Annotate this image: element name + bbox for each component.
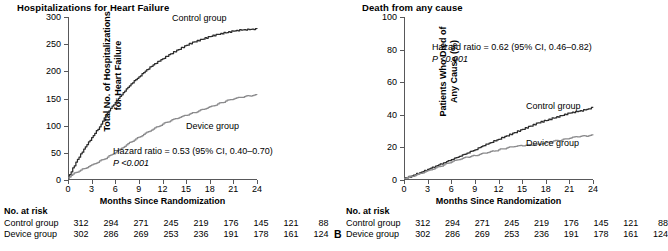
y-tick bbox=[400, 115, 404, 116]
panel-b-device-series-label: Device group bbox=[526, 139, 579, 148]
risk-row-value: 271 bbox=[119, 218, 149, 229]
y-tick bbox=[400, 17, 404, 18]
risk-row-value: 88 bbox=[638, 218, 668, 229]
x-tick-label: 6 bbox=[113, 185, 118, 194]
risk-row-value: 176 bbox=[209, 218, 239, 229]
panel-b-plot-area: Patients Who Died of Any Cause (%) Month… bbox=[404, 17, 593, 180]
x-tick-label: 15 bbox=[517, 185, 527, 194]
risk-row-value: 294 bbox=[430, 218, 460, 229]
risk-row-value: 191 bbox=[209, 229, 239, 240]
risk-row-value: 245 bbox=[490, 218, 520, 229]
risk-row-value: 124 bbox=[299, 229, 329, 240]
panel-a-device-series-label: Device group bbox=[186, 122, 239, 131]
y-tick bbox=[64, 71, 68, 72]
y-tick-label: 20 bbox=[387, 143, 397, 152]
risk-row-value: 145 bbox=[579, 218, 609, 229]
risk-row-label: Device group bbox=[346, 229, 401, 240]
panel-a-hospitalizations: Hospitalizations for Heart Failure Total… bbox=[0, 0, 334, 251]
risk-row-value: 236 bbox=[519, 229, 549, 240]
panel-a-p-value-text: P <0.001 bbox=[113, 158, 273, 170]
panel-a-hazard-ratio-annotation: Hazard ratio = 0.53 (95% CI, 0.40–0.70) … bbox=[113, 146, 273, 169]
panel-b-control-series-label: Control group bbox=[526, 102, 581, 111]
y-tick-label: 100 bbox=[46, 121, 61, 130]
risk-row-value: 312 bbox=[59, 218, 89, 229]
x-tick-label: 15 bbox=[181, 185, 191, 194]
y-tick bbox=[64, 99, 68, 100]
risk-row-value: 219 bbox=[519, 218, 549, 229]
risk-row-value: 219 bbox=[179, 218, 209, 229]
x-tick-label: 24 bbox=[588, 185, 598, 194]
x-tick-label: 18 bbox=[541, 185, 551, 194]
risk-row-label: Control group bbox=[4, 218, 59, 229]
x-tick-label: 6 bbox=[449, 185, 454, 194]
risk-row: Device group302286269253236191178161124 bbox=[4, 229, 329, 240]
x-tick-label: 0 bbox=[401, 185, 406, 194]
y-tick bbox=[400, 82, 404, 83]
panel-b-death-any-cause: Death from any cause Patients Who Died o… bbox=[334, 0, 668, 251]
x-tick-label: 12 bbox=[157, 185, 167, 194]
y-tick bbox=[64, 44, 68, 45]
y-tick-label: 300 bbox=[46, 13, 61, 22]
panel-b-risk-title: No. at risk bbox=[346, 206, 668, 217]
risk-row-value: 161 bbox=[269, 229, 299, 240]
panel-a-risk-numbers: Control group31229427124521917614512188D… bbox=[4, 218, 329, 240]
risk-row-value: 286 bbox=[89, 229, 119, 240]
panel-b-risk-table: No. at risk Control group312294271245219… bbox=[346, 206, 668, 240]
x-tick-label: 3 bbox=[425, 185, 430, 194]
y-tick-label: 200 bbox=[46, 67, 61, 76]
panel-b-hazard-ratio-annotation: Hazard ratio = 0.62 (95% CI, 0.46–0.82) … bbox=[432, 42, 592, 65]
risk-row-value: 253 bbox=[149, 229, 179, 240]
risk-row-value: 312 bbox=[401, 218, 431, 229]
panel-b-x-axis-label: Months Since Randomization bbox=[404, 196, 593, 206]
y-tick-label: 40 bbox=[387, 110, 397, 119]
panel-a-hazard-ratio-text: Hazard ratio = 0.53 (95% CI, 0.40–0.70) bbox=[113, 146, 273, 158]
x-tick-label: 3 bbox=[89, 185, 94, 194]
x-tick-label: 21 bbox=[228, 185, 238, 194]
risk-row-value: 245 bbox=[149, 218, 179, 229]
x-tick-label: 18 bbox=[205, 185, 215, 194]
y-tick bbox=[64, 17, 68, 18]
panel-a-title: Hospitalizations for Heart Failure bbox=[17, 2, 169, 13]
risk-row-value: 269 bbox=[460, 229, 490, 240]
risk-row-value: 302 bbox=[401, 229, 431, 240]
y-tick bbox=[400, 50, 404, 51]
risk-row-value: 176 bbox=[549, 218, 579, 229]
x-tick-label: 21 bbox=[564, 185, 574, 194]
panel-b-hazard-ratio-text: Hazard ratio = 0.62 (95% CI, 0.46–0.82) bbox=[432, 42, 592, 54]
y-tick-label: 60 bbox=[387, 78, 397, 87]
risk-row: Control group31229427124521917614512188 bbox=[346, 218, 668, 229]
y-tick-label: 150 bbox=[46, 94, 61, 103]
y-tick-label: 0 bbox=[392, 176, 397, 185]
risk-row-value: 88 bbox=[299, 218, 329, 229]
risk-row-value: 236 bbox=[179, 229, 209, 240]
risk-row-value: 145 bbox=[239, 218, 269, 229]
risk-row-label: Device group bbox=[4, 229, 59, 240]
panel-a-risk-table: No. at risk Control group312294271245219… bbox=[4, 206, 329, 240]
risk-row-value: 161 bbox=[608, 229, 638, 240]
risk-row-value: 269 bbox=[119, 229, 149, 240]
risk-row-value: 302 bbox=[59, 229, 89, 240]
risk-row-value: 121 bbox=[608, 218, 638, 229]
panel-a-x-axis-label: Months Since Randomization bbox=[68, 196, 257, 206]
risk-row-value: 294 bbox=[89, 218, 119, 229]
risk-row-value: 191 bbox=[549, 229, 579, 240]
risk-row: Device group302286269253236191178161124 bbox=[346, 229, 668, 240]
y-tick-label: 250 bbox=[46, 40, 61, 49]
x-tick-label: 0 bbox=[65, 185, 70, 194]
x-tick-label: 9 bbox=[472, 185, 477, 194]
risk-row-value: 121 bbox=[269, 218, 299, 229]
x-tick-label: 24 bbox=[252, 185, 262, 194]
y-tick bbox=[400, 147, 404, 148]
risk-row-value: 124 bbox=[638, 229, 668, 240]
risk-row-value: 271 bbox=[460, 218, 490, 229]
y-tick bbox=[64, 153, 68, 154]
panel-a-control-series-label: Control group bbox=[172, 14, 227, 23]
risk-row-value: 286 bbox=[430, 229, 460, 240]
y-tick-label: 0 bbox=[56, 176, 61, 185]
risk-row: Control group31229427124521917614512188 bbox=[4, 218, 329, 229]
x-tick-label: 9 bbox=[136, 185, 141, 194]
panel-b-letter: B bbox=[334, 228, 342, 240]
panel-b-risk-numbers: Control group31229427124521917614512188D… bbox=[346, 218, 668, 240]
y-tick bbox=[64, 126, 68, 127]
y-tick-label: 100 bbox=[382, 13, 397, 22]
